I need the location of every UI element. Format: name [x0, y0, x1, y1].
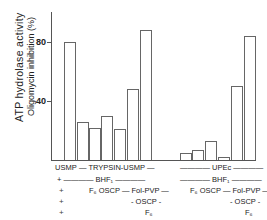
y-axis-label: ATP hydrolase activity [13, 12, 25, 122]
bar [218, 157, 230, 160]
tick-label-40: 40 [26, 96, 46, 106]
bar [114, 129, 126, 160]
bar [180, 153, 192, 160]
bar [140, 30, 152, 160]
x-axis [51, 160, 256, 161]
label-f6-right: F₆ [245, 208, 253, 217]
label-f6-left: F₆ [145, 208, 153, 217]
label-f6-oscp-right: F₆ OSCP — Fol-PVP — [190, 186, 267, 195]
bar [192, 150, 204, 160]
tick-label-80: 80 [26, 37, 46, 47]
label-f6-oscp-left: F₆ OSCP — Fol-PVP — [89, 186, 169, 195]
label-oscp-left: - OSCP - [131, 197, 161, 206]
label-oscp-right: - OSCP - [230, 197, 260, 206]
plus-5: + [59, 208, 64, 217]
bar [231, 86, 243, 160]
bar [244, 36, 256, 160]
tick-40 [47, 101, 51, 102]
chart: ATP hydrolase activity Oligomycin inhibi… [0, 0, 267, 220]
label-trypsin-usmp: — TRYPSIN-USMP — [79, 163, 154, 172]
label-bhf1-left: + ———— BHF₁ ———— [57, 175, 145, 184]
bar [77, 122, 89, 160]
plus-4: + [59, 197, 64, 206]
bar [127, 89, 139, 160]
label-usmp: USMP [55, 163, 77, 172]
bar [205, 141, 217, 160]
tick-80 [47, 42, 51, 43]
bar [64, 42, 76, 160]
y-axis [51, 12, 52, 160]
label-bhf1-right: ———— BHF₁ ———— [180, 175, 262, 184]
label-upec: ———— UPEc ———— [180, 163, 263, 172]
bar [89, 128, 101, 160]
plus-3: + [59, 186, 64, 195]
bar [101, 116, 113, 160]
